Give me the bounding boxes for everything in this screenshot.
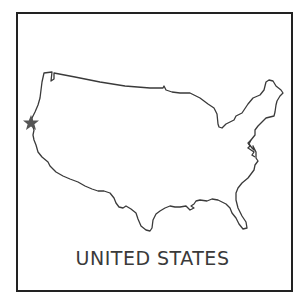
star-icon xyxy=(23,115,39,130)
us-outline-path xyxy=(32,72,283,231)
country-name-label: UNITED STATES xyxy=(0,247,305,269)
